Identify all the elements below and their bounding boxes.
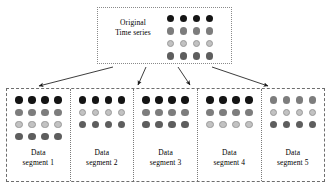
data-segment-1[interactable]: Datasegment 1 <box>7 89 71 181</box>
data-segment-1-dot-grid <box>12 94 64 143</box>
data-segment-5-label-line2: segment 5 <box>262 158 324 168</box>
original-time-series-dot <box>167 27 174 34</box>
data-segment-2-dot <box>105 109 112 116</box>
arrow-to-segment-3 <box>138 67 146 85</box>
data-segment-1-dot <box>28 133 35 140</box>
original-time-series-dot <box>206 27 213 34</box>
data-segment-4-dot <box>232 121 239 128</box>
data-segment-1-dot <box>15 109 22 116</box>
data-segment-5-dot <box>296 96 303 103</box>
data-segment-5-dot <box>270 109 277 116</box>
data-segment-4-dot <box>245 121 252 128</box>
data-segment-2-label: Datasegment 2 <box>71 148 133 167</box>
data-segment-5-dot <box>296 109 303 116</box>
data-segment-5[interactable]: Datasegment 5 <box>262 89 324 181</box>
data-segment-5-dot <box>283 121 290 128</box>
original-time-series-dot <box>180 52 187 59</box>
data-segment-4-dot <box>206 121 213 128</box>
data-segment-1-dot <box>15 133 22 140</box>
data-segment-4-dot <box>219 109 226 116</box>
data-segment-2-label-line2: segment 2 <box>71 158 133 168</box>
original-time-series-dot <box>206 40 213 47</box>
data-segment-4-dot <box>206 109 213 116</box>
data-segment-2-label-line1: Data <box>71 148 133 158</box>
data-segment-5-dot-grid <box>267 94 319 131</box>
data-segment-4[interactable]: Datasegment 4 <box>198 89 262 181</box>
original-time-series-dot <box>167 40 174 47</box>
data-segment-4-dot <box>232 109 239 116</box>
data-segment-3-label: Datasegment 3 <box>134 148 197 167</box>
data-segment-5-dot <box>309 121 316 128</box>
data-segment-3-label-line1: Data <box>134 148 197 158</box>
data-segment-4-label-line2: segment 4 <box>198 158 261 168</box>
original-time-series-dot <box>180 40 187 47</box>
data-segment-5-dot <box>309 109 316 116</box>
data-segment-1-dot <box>28 96 35 103</box>
data-segment-5-dot <box>283 109 290 116</box>
arrow-to-segment-1 <box>39 67 113 86</box>
data-segment-4-dot-grid <box>203 94 255 131</box>
data-segment-5-dot <box>283 96 290 103</box>
data-segment-3-dot <box>181 121 188 128</box>
data-segment-4-dot <box>219 96 226 103</box>
data-segment-3-dot <box>155 96 162 103</box>
data-segment-4-label-line1: Data <box>198 148 261 158</box>
original-time-series-dot <box>193 15 200 22</box>
data-segment-5-dot <box>309 96 316 103</box>
data-segment-3-dot <box>168 109 175 116</box>
original-time-series-dot <box>193 40 200 47</box>
data-segment-1-dot <box>41 96 48 103</box>
data-segment-2-dot <box>92 121 99 128</box>
data-segment-4-dot <box>245 109 252 116</box>
data-segment-1-dot <box>15 121 22 128</box>
data-segment-1-dot <box>28 121 35 128</box>
original-time-series-dot <box>193 52 200 59</box>
original-time-series-dot <box>167 15 174 22</box>
original-time-series-dot <box>206 52 213 59</box>
data-segment-4-label: Datasegment 4 <box>198 148 261 167</box>
data-segment-1-dot <box>41 121 48 128</box>
original-time-series-dot <box>193 27 200 34</box>
data-segment-2-dot <box>105 96 112 103</box>
original-time-series-box: Original Time series <box>97 7 232 64</box>
original-time-series-dot <box>206 15 213 22</box>
data-segment-5-label-line1: Data <box>262 148 324 158</box>
data-segment-3-dot <box>168 121 175 128</box>
data-segment-5-label: Datasegment 5 <box>262 148 324 167</box>
data-segments-container: Datasegment 1Datasegment 2Datasegment 3D… <box>6 88 325 182</box>
data-segment-1-label: Datasegment 1 <box>7 148 70 167</box>
data-segment-3-dot <box>155 121 162 128</box>
data-segment-4-dot <box>245 96 252 103</box>
data-segment-3-dot <box>142 96 149 103</box>
data-segment-1-dot <box>28 109 35 116</box>
data-segment-2-dot <box>118 96 125 103</box>
data-segment-1-dot <box>54 133 61 140</box>
original-time-series-label-line1: Original <box>104 18 162 28</box>
data-segment-1-dot <box>41 109 48 116</box>
data-segment-5-dot <box>270 121 277 128</box>
data-segment-1-dot <box>54 96 61 103</box>
data-segment-2-dot <box>79 96 86 103</box>
data-segment-1-dot <box>54 109 61 116</box>
data-segment-5-dot <box>296 121 303 128</box>
data-segment-3-label-line2: segment 3 <box>134 158 197 168</box>
data-segment-2-dot <box>118 121 125 128</box>
data-segment-1-label-line2: segment 1 <box>7 158 70 168</box>
data-segment-1-dot <box>41 133 48 140</box>
data-segment-1-dot <box>15 96 22 103</box>
data-segment-2-dot <box>118 109 125 116</box>
data-segment-2[interactable]: Datasegment 2 <box>71 89 134 181</box>
data-segment-3-dot-grid <box>140 94 192 131</box>
data-segment-4-dot <box>206 96 213 103</box>
data-segment-3-dot <box>181 109 188 116</box>
data-segment-3-dot <box>142 121 149 128</box>
original-time-series-dot <box>180 15 187 22</box>
original-time-series-label: Original Time series <box>104 18 162 37</box>
data-segment-2-dot-grid <box>76 94 128 131</box>
data-segment-3-dot <box>168 96 175 103</box>
data-segment-1-dot <box>54 121 61 128</box>
segmentation-diagram: Original Time series Datasegment 1Datase… <box>0 0 331 188</box>
data-segment-2-dot <box>79 109 86 116</box>
data-segment-3[interactable]: Datasegment 3 <box>134 89 198 181</box>
original-time-series-dot <box>180 27 187 34</box>
